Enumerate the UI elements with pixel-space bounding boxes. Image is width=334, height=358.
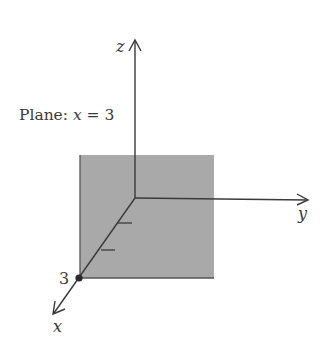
plane-title-prefix: Plane:	[19, 106, 73, 124]
y-axis-label: y	[297, 204, 308, 223]
plane-x-equals-3	[80, 155, 214, 278]
point-label-3: 3	[59, 269, 69, 288]
plane-title: Plane: x = 3	[19, 106, 114, 124]
plane-title-suffix: = 3	[82, 106, 115, 124]
z-axis-label: z	[115, 37, 125, 56]
point-x-3	[75, 274, 82, 281]
x-axis-label: x	[53, 317, 62, 336]
plane-title-var: x	[73, 106, 82, 124]
plane-diagram: 3 x y z Plane: x = 3	[0, 0, 334, 358]
